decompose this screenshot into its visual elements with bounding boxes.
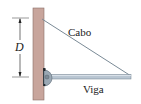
cable-beam-diagram: Cabo Viga D xyxy=(0,0,141,104)
cable-label: Cabo xyxy=(68,27,91,38)
beam xyxy=(46,75,131,80)
pin-support xyxy=(43,68,52,86)
wall xyxy=(33,8,44,100)
beam-label: Viga xyxy=(83,84,104,95)
dimension-label: D xyxy=(15,41,24,53)
